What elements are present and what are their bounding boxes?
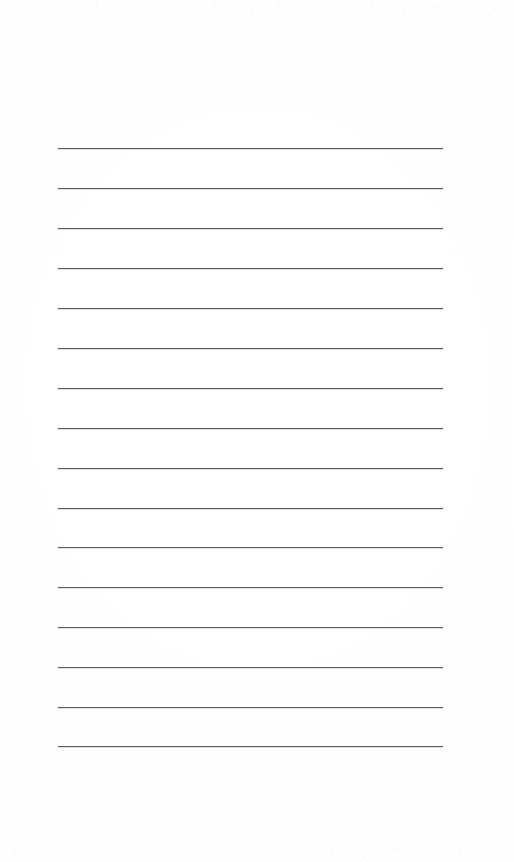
- rule-line: [58, 627, 443, 628]
- scanned-page: [0, 0, 514, 862]
- rule-line: [58, 268, 443, 269]
- rule-line: [58, 308, 443, 309]
- rule-line: [58, 746, 443, 747]
- rule-line: [58, 388, 443, 389]
- rule-line: [58, 348, 443, 349]
- rule-line: [58, 587, 443, 588]
- rule-line: [58, 468, 443, 469]
- rule-line: [58, 667, 443, 668]
- rule-line: [58, 547, 443, 548]
- rule-line: [58, 188, 443, 189]
- ruled-lines-group: [0, 0, 514, 862]
- rule-line: [58, 428, 443, 429]
- rule-line: [58, 707, 443, 708]
- rule-line: [58, 508, 443, 509]
- rule-line: [58, 228, 443, 229]
- rule-line: [58, 148, 443, 149]
